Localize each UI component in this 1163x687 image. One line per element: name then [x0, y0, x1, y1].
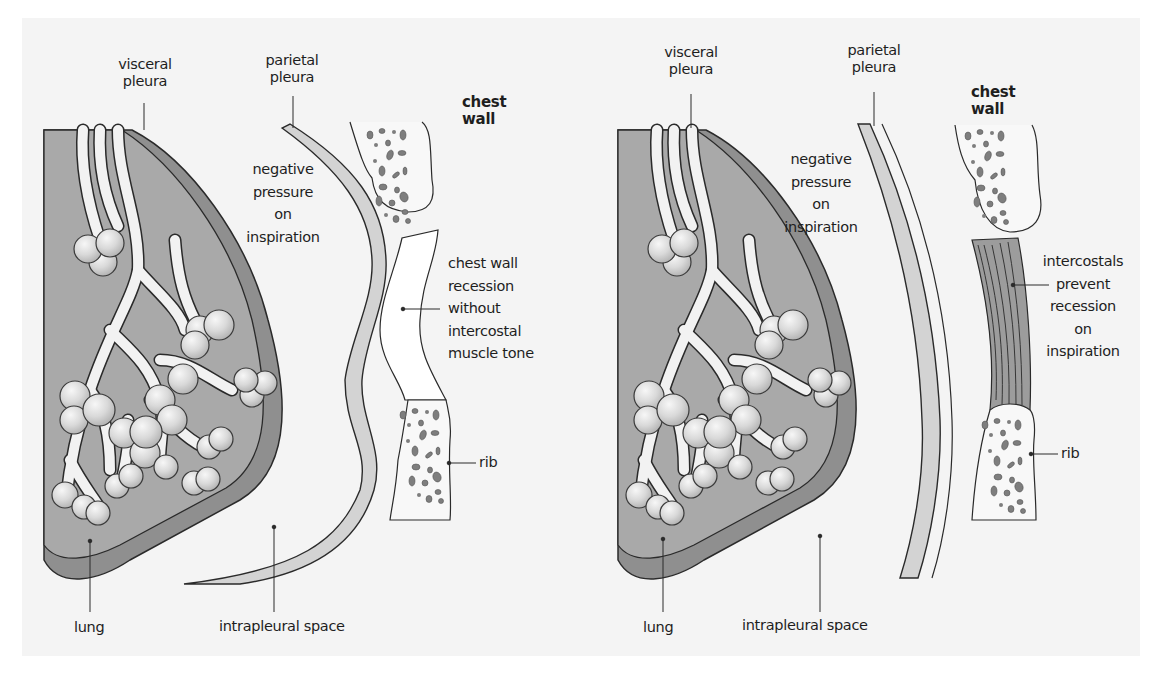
- right-label-lung: lung: [643, 619, 673, 636]
- left-label-recession: chest wall recession without intercostal…: [448, 252, 534, 365]
- left-label-chest-wall: chest wall: [462, 94, 506, 128]
- right-label-chest-wall: chest wall: [971, 84, 1015, 118]
- left-label-negative-pressure: negative pressure on inspiration: [238, 158, 328, 248]
- left-label-lung: lung: [74, 619, 104, 636]
- right-label-intrapleural-space: intrapleural space: [742, 617, 868, 634]
- left-label-visceral-pleura: visceral pleura: [110, 56, 180, 90]
- left-label-rib: rib: [479, 454, 497, 471]
- right-label-visceral-pleura: visceral pleura: [656, 44, 726, 78]
- right-label-intercostals: intercostals prevent recession on inspir…: [1028, 250, 1138, 363]
- right-label-parietal-pleura: parietal pleura: [838, 42, 910, 76]
- right-label-rib: rib: [1061, 445, 1079, 462]
- left-label-parietal-pleura: parietal pleura: [256, 52, 328, 86]
- right-label-negative-pressure: negative pressure on inspiration: [776, 148, 866, 238]
- left-label-intrapleural-space: intrapleural space: [219, 618, 345, 635]
- right-parietal-pleura: [858, 124, 952, 578]
